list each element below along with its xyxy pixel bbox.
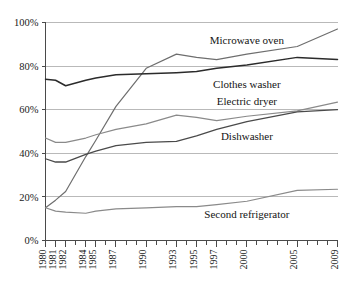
series-inline-labels: Microwave ovenClothes washerElectric dry… bbox=[204, 34, 290, 220]
chart-canvas: 0%20%40%60%80%100% 198019811982198419851… bbox=[0, 0, 347, 288]
y-axis-label-40: 40% bbox=[19, 148, 39, 159]
y-axis-label-60: 60% bbox=[19, 104, 39, 115]
x-axis-label-1982: 1982 bbox=[57, 250, 68, 270]
x-axis-label-1995: 1995 bbox=[188, 250, 199, 270]
y-axis-label-100: 100% bbox=[14, 17, 39, 28]
x-axis-label-1990: 1990 bbox=[137, 250, 148, 270]
y-axis-tick-labels: 0%20%40%60%80%100% bbox=[14, 17, 39, 246]
series-line-clothes-washer bbox=[46, 57, 338, 85]
appliance-saturation-chart: 0%20%40%60%80%100% 198019811982198419851… bbox=[0, 0, 347, 288]
x-axis-label-1993: 1993 bbox=[167, 250, 178, 270]
x-axis-label-2009: 2009 bbox=[329, 250, 340, 270]
series-label-second-refrigerator: Second refrigerator bbox=[204, 208, 290, 220]
x-axis-label-1997: 1997 bbox=[208, 250, 219, 270]
x-axis-label-2000: 2000 bbox=[238, 250, 249, 270]
series-label-microwave-oven: Microwave oven bbox=[210, 34, 285, 46]
data-series-lines bbox=[46, 29, 338, 213]
gridlines bbox=[46, 23, 338, 197]
y-axis-label-20: 20% bbox=[19, 192, 39, 203]
series-line-second-refrigerator bbox=[46, 189, 338, 213]
x-axis-tick-labels: 1980198119821984198519871990199319951997… bbox=[37, 250, 340, 270]
y-axis-label-0: 0% bbox=[25, 235, 39, 246]
series-line-dishwasher bbox=[46, 110, 338, 162]
series-label-electric-dryer: Electric dryer bbox=[217, 95, 277, 107]
y-axis-label-80: 80% bbox=[19, 61, 39, 72]
x-axis-label-1987: 1987 bbox=[107, 250, 118, 270]
series-line-electric-dryer bbox=[46, 102, 338, 142]
x-tick-marks bbox=[46, 241, 338, 247]
x-axis-label-1985: 1985 bbox=[87, 250, 98, 270]
series-line-microwave-oven bbox=[46, 29, 338, 208]
series-label-clothes-washer: Clothes washer bbox=[213, 78, 281, 90]
x-axis-label-2005: 2005 bbox=[288, 250, 299, 270]
series-label-dishwasher: Dishwasher bbox=[221, 130, 273, 142]
axes bbox=[42, 22, 338, 241]
